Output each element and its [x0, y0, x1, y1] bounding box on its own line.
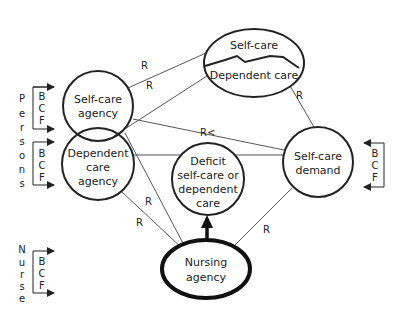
svg-text:C: C [39, 103, 46, 114]
svg-text:R: R [145, 196, 152, 207]
svg-text:F: F [39, 280, 45, 291]
svg-text:Self-care: Self-care [294, 150, 342, 163]
svg-text:r: r [20, 269, 25, 280]
line-depagency-to-nursing [122, 192, 184, 250]
svg-text:Self-care: Self-care [74, 93, 122, 106]
svg-text:dependent: dependent [178, 183, 238, 196]
svg-text:R: R [136, 217, 143, 228]
line-demand-to-nursing [232, 188, 292, 248]
svg-text:agency: agency [186, 271, 227, 284]
svg-text:u: u [19, 257, 25, 268]
svg-text:R: R [263, 224, 270, 235]
svg-text:o: o [19, 150, 25, 161]
svg-text:self-care or: self-care or [177, 169, 239, 182]
svg-text:C: C [39, 160, 46, 171]
persons-label: P e r s o n s [19, 93, 25, 189]
svg-text:B: B [39, 91, 46, 102]
svg-text:R<: R< [200, 127, 215, 138]
svg-text:Deficit: Deficit [190, 155, 226, 168]
demand-bcf: B C F [364, 143, 384, 187]
deficit-node: Deficit self-care or dependent care [172, 143, 244, 215]
svg-text:P: P [19, 93, 25, 104]
svg-text:agency: agency [78, 175, 119, 188]
nurse-label: N u r s e [18, 244, 25, 304]
svg-text:agency: agency [78, 107, 119, 120]
nurse-bcf: B C F [33, 251, 54, 293]
line-depagency-to-selfcare [114, 74, 210, 136]
nursing-agency-node: Nursing agency [162, 240, 250, 298]
svg-text:F: F [372, 172, 378, 183]
svg-text:r: r [20, 122, 25, 133]
self-care-ellipse: Self-care Dependent care [204, 29, 304, 97]
dependent-care-agency-node: Dependent care agency [62, 128, 134, 200]
svg-text:e: e [19, 293, 25, 304]
svg-text:s: s [19, 178, 24, 189]
svg-text:F: F [39, 115, 45, 126]
svg-text:e: e [19, 108, 25, 119]
line-agency-to-selfcare [128, 53, 206, 88]
svg-text:n: n [19, 164, 25, 175]
svg-text:C: C [372, 160, 379, 171]
nursing-to-deficit-arrow [201, 215, 213, 240]
svg-text:demand: demand [295, 164, 340, 177]
self-care-demand-node: Self-care demand [283, 127, 353, 197]
svg-text:R: R [296, 90, 303, 101]
self-care-label: Self-care [230, 39, 278, 52]
svg-text:C: C [39, 268, 46, 279]
svg-text:care: care [196, 197, 220, 210]
svg-text:B: B [39, 148, 46, 159]
svg-text:R: R [141, 60, 148, 71]
svg-text:N: N [18, 244, 25, 255]
svg-text:s: s [19, 136, 24, 147]
dependent-care-label: Dependent care [210, 69, 299, 82]
svg-text:R: R [146, 80, 153, 91]
svg-text:B: B [372, 148, 379, 159]
persons-bcf-top: B C F [33, 87, 54, 129]
svg-text:care: care [86, 161, 110, 174]
svg-text:F: F [39, 172, 45, 183]
svg-text:Dependent: Dependent [68, 147, 130, 160]
svg-text:Nursing: Nursing [185, 256, 227, 269]
svg-text:s: s [19, 281, 24, 292]
persons-bcf-bottom: B C F [33, 142, 54, 185]
self-care-deficit-diagram: Self-care Dependent care Self-care agenc… [0, 0, 405, 314]
self-care-agency-node: Self-care agency [63, 71, 133, 141]
svg-text:B: B [39, 256, 46, 267]
